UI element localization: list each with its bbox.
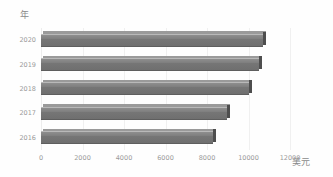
y-tick-label: 2016 [10,134,36,142]
bar-2017 [41,107,227,120]
x-tick-label: 4000 [116,154,133,162]
y-tick-label: 2018 [10,85,36,93]
bar-row [41,77,249,101]
bar-chart: 年 美元 020004000600080001000012000 2020201… [0,0,333,177]
bar-2016 [41,131,213,144]
x-tick-label: 6000 [157,154,174,162]
bar-2018 [41,82,249,95]
y-tick-label: 2020 [10,36,36,44]
bar-row [41,101,227,125]
y-tick-label: 2017 [10,109,36,117]
x-tick-label: 0 [39,154,43,162]
x-tick-label: 10000 [238,154,259,162]
y-tick-label: 2019 [10,61,36,69]
plot-area [41,28,290,150]
x-tick-label: 2000 [74,154,91,162]
y-axis-title: 年 [20,8,29,21]
bar-row [41,126,213,150]
bar-2019 [41,58,259,71]
x-tick-label: 8000 [199,154,216,162]
bar-row [41,28,263,52]
bar-2020 [41,34,263,47]
bar-row [41,52,259,76]
bars-layer [41,28,290,150]
gridline-12000 [290,28,291,150]
x-tick-label: 12000 [280,154,301,162]
